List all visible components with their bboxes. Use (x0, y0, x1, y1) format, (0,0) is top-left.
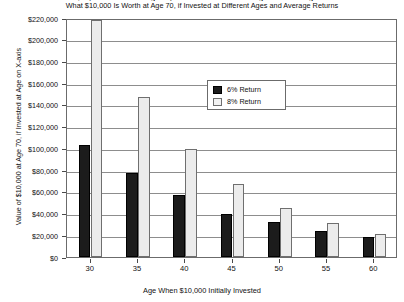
bar-8-return-age-55 (327, 223, 339, 257)
x-axis-tick-mark (279, 259, 280, 263)
x-axis-tick-label: 60 (353, 264, 393, 273)
y-axis-tick-label: $140,000 (0, 101, 58, 110)
y-axis-tick-label: $60,000 (0, 188, 58, 197)
bar-6-return-age-50 (268, 222, 280, 257)
x-axis-tick-label: 45 (212, 264, 252, 273)
bar-8-return-age-50 (280, 208, 292, 257)
bar-6-return-age-40 (173, 195, 185, 257)
y-axis-tick-label: $0 (0, 254, 58, 263)
x-axis-tick-mark (137, 259, 138, 263)
y-axis-tick-mark (62, 19, 66, 20)
y-axis-tick-mark (62, 105, 66, 106)
y-axis-tick-label: $100,000 (0, 145, 58, 154)
x-axis-tick-mark (232, 259, 233, 263)
y-axis-tick-label: $20,000 (0, 232, 58, 241)
bar-8-return-age-30 (91, 20, 103, 257)
y-axis-tick-mark (62, 149, 66, 150)
bar-8-return-age-35 (138, 97, 150, 257)
y-axis-tick-mark (62, 236, 66, 237)
bar-6-return-age-30 (79, 145, 91, 257)
legend-swatch-6-percent-icon (213, 86, 222, 94)
gridline (67, 41, 396, 42)
x-axis-title: Age When $10,000 Initially Invested (0, 286, 404, 295)
gridline (67, 63, 396, 64)
bar-8-return-age-60 (375, 234, 387, 257)
x-axis-tick-mark (90, 259, 91, 263)
legend-label-8-percent: 8% Return (227, 97, 261, 106)
y-axis-title: Value of $10,000 at Age 70, if Invested … (14, 12, 23, 262)
y-axis-tick-mark (62, 62, 66, 63)
bar-8-return-age-40 (185, 149, 197, 257)
y-axis-tick-mark (62, 214, 66, 215)
legend-label-6-percent: 6% Return (227, 85, 261, 94)
y-axis-tick-mark (62, 258, 66, 259)
x-axis-tick-label: 55 (306, 264, 346, 273)
y-axis-tick-label: $80,000 (0, 167, 58, 176)
chart-container: What $10,000 Is Worth at Age 70, if Inve… (0, 0, 404, 302)
x-axis-tick-label: 35 (117, 264, 157, 273)
chart-title: What $10,000 Is Worth at Age 70, if Inve… (0, 1, 404, 10)
x-axis-tick-label: 40 (164, 264, 204, 273)
legend-swatch-8-percent-icon (213, 98, 222, 106)
x-axis-tick-mark (184, 259, 185, 263)
gridline (67, 193, 396, 194)
y-axis-tick-label: $200,000 (0, 36, 58, 45)
plot-area (66, 19, 397, 258)
y-axis-tick-mark (62, 40, 66, 41)
y-axis-tick-mark (62, 84, 66, 85)
y-axis-tick-label: $40,000 (0, 210, 58, 219)
y-axis-tick-label: $160,000 (0, 80, 58, 89)
x-axis-tick-mark (373, 259, 374, 263)
bar-6-return-age-35 (126, 173, 138, 257)
y-axis-tick-label: $220,000 (0, 15, 58, 24)
chart-legend: 6% Return 8% Return (207, 80, 286, 110)
x-axis-tick-label: 30 (70, 264, 110, 273)
x-axis-tick-label: 50 (259, 264, 299, 273)
bar-6-return-age-55 (315, 231, 327, 257)
gridline (67, 128, 396, 129)
bar-6-return-age-45 (221, 214, 233, 257)
bar-8-return-age-45 (233, 184, 245, 257)
y-axis-tick-mark (62, 192, 66, 193)
gridline (67, 150, 396, 151)
y-axis-tick-mark (62, 171, 66, 172)
y-axis-tick-mark (62, 127, 66, 128)
bar-6-return-age-60 (363, 237, 375, 257)
x-axis-tick-mark (326, 259, 327, 263)
gridline (67, 172, 396, 173)
y-axis-tick-label: $120,000 (0, 123, 58, 132)
y-axis-tick-label: $180,000 (0, 58, 58, 67)
